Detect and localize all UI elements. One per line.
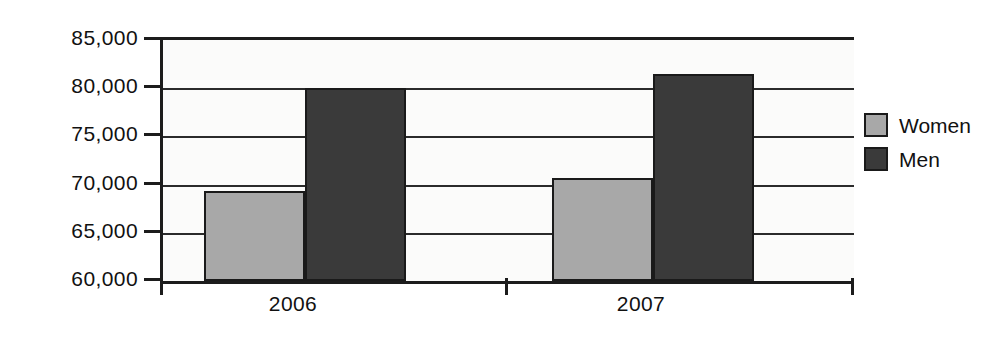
y-axis-tick-mark xyxy=(144,182,160,185)
bar-chart: 85,00080,00075,00070,00065,00060,000 200… xyxy=(0,0,982,338)
y-axis-tick-label: 60,000 xyxy=(18,268,138,289)
y-axis-tick-label: 80,000 xyxy=(18,75,138,96)
legend-swatch-icon xyxy=(864,113,888,137)
x-axis-tick-mark xyxy=(505,278,508,295)
y-axis-tick-label: 75,000 xyxy=(18,123,138,144)
chart-legend: WomenMen xyxy=(864,108,982,176)
y-axis-ticks xyxy=(144,0,160,338)
y-axis-tick-mark xyxy=(144,133,160,136)
y-axis-tick-label: 65,000 xyxy=(18,220,138,241)
y-axis-tick-label: 70,000 xyxy=(18,172,138,193)
y-axis-labels: 85,00080,00075,00070,00065,00060,000 xyxy=(18,0,138,338)
legend-item-men: Men xyxy=(864,142,982,176)
legend-label: Men xyxy=(899,149,940,170)
y-axis-tick-label: 85,000 xyxy=(18,27,138,48)
plot-area xyxy=(160,37,854,284)
bar-2006-women xyxy=(204,191,305,281)
y-axis-tick-mark xyxy=(144,278,160,281)
bar-2007-men xyxy=(653,74,754,281)
x-axis-tick-mark xyxy=(851,278,854,295)
legend-label: Women xyxy=(899,115,971,136)
x-axis-tick-mark xyxy=(160,278,163,295)
x-axis-tick-label: 2007 xyxy=(601,292,681,316)
legend-swatch-icon xyxy=(864,147,888,171)
y-axis-tick-mark xyxy=(144,85,160,88)
legend-item-women: Women xyxy=(864,108,982,142)
x-axis-tick-label: 2006 xyxy=(253,292,333,316)
y-axis-tick-mark xyxy=(144,37,160,40)
bar-2006-men xyxy=(305,88,406,281)
y-axis-tick-mark xyxy=(144,230,160,233)
bar-2007-women xyxy=(552,178,653,281)
